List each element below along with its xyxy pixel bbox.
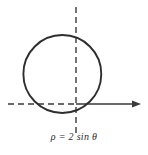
equation-caption: ρ = 2 sin θ [0, 131, 148, 143]
polar-graph-figure: ρ = 2 sin θ [0, 0, 148, 155]
